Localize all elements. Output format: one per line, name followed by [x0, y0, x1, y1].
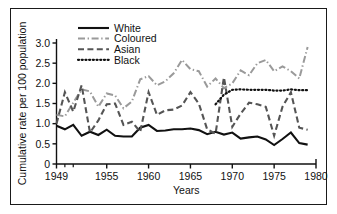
y-tick-label: 3.0: [35, 37, 50, 49]
chart-figure: 00.51.01.52.02.53.0194919551960196519701…: [0, 0, 337, 214]
line-chart: 00.51.01.52.02.53.0194919551960196519701…: [0, 0, 337, 214]
y-tick-label: 2.0: [35, 77, 50, 89]
x-tick-label: 1949: [45, 170, 69, 182]
x-axis-title: Years: [173, 184, 199, 196]
y-tick-label: 1.0: [35, 117, 50, 129]
y-tick-label: 0: [44, 158, 50, 170]
x-tick-label: 1975: [262, 170, 286, 182]
x-tick-label: 1955: [95, 170, 119, 182]
x-tick-label: 1960: [137, 170, 161, 182]
x-tick-label: 1965: [179, 170, 203, 182]
x-tick-label: 1980: [304, 170, 328, 182]
y-axis-title: Cumulative rate per 100 population: [16, 22, 28, 186]
series-line-coloured: [57, 47, 308, 116]
y-tick-label: 2.5: [35, 57, 50, 69]
y-tick-label: 1.5: [35, 97, 50, 109]
legend-label-black: Black: [114, 54, 140, 66]
y-tick-label: 0.5: [35, 138, 50, 150]
series-line-asian: [57, 77, 308, 135]
x-tick-label: 1970: [221, 170, 245, 182]
